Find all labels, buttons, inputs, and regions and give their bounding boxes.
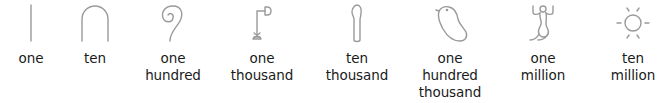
numeral-one-thousand: one thousand (212, 0, 312, 84)
coil-of-rope-icon (143, 0, 203, 44)
numeral-label: ten million (583, 50, 667, 84)
numeral-one-hundred: one hundred (123, 0, 223, 84)
numeral-label: one hundred (123, 50, 223, 84)
numeral-label: ten thousand (307, 50, 407, 84)
sun-icon (603, 0, 663, 44)
tadpole-icon (420, 0, 480, 44)
lotus-plant-icon (232, 0, 292, 44)
numeral-label: one hundred thousand (400, 50, 500, 101)
numeral-label: one million (493, 50, 593, 84)
heh-god-icon (513, 0, 573, 44)
numeral-ten-thousand: ten thousand (307, 0, 407, 84)
numeral-ten-million: ten million (583, 0, 667, 84)
numeral-one-million: one million (493, 0, 593, 84)
heel-bone-icon (65, 0, 125, 44)
finger-icon (327, 0, 387, 44)
numeral-label: one thousand (212, 50, 312, 84)
numeral-one-hundred-thousand: one hundred thousand (400, 0, 500, 101)
